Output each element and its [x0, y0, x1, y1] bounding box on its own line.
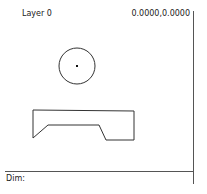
- drawing-canvas[interactable]: [0, 0, 207, 194]
- circle-center-mark: [76, 65, 78, 67]
- cursor-coordinates: 0.0000,0.0000: [131, 9, 190, 19]
- polygon-shape[interactable]: [33, 110, 134, 140]
- dim-prompt-label: Dim:: [6, 174, 25, 184]
- layer-label: Layer 0: [22, 9, 52, 19]
